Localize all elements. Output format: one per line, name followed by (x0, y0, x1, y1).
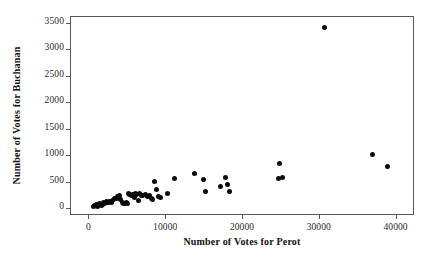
y-axis-tick-mark (66, 23, 70, 24)
y-axis-tick-label: 3500 (45, 16, 64, 26)
y-axis-tick-label: 3000 (45, 42, 64, 52)
y-axis-tick-mark (66, 102, 70, 103)
y-axis-tick-mark (66, 182, 70, 183)
y-axis-tick-mark (66, 155, 70, 156)
x-axis-tick-mark (242, 215, 243, 219)
x-axis-title: Number of Votes for Perot (70, 236, 414, 247)
y-axis-title: Number of Votes for Buchanan (11, 16, 25, 215)
x-axis-tick-label: 30000 (307, 222, 331, 232)
y-axis-tick-mark (66, 129, 70, 130)
y-axis-tick-label: 2000 (45, 95, 64, 105)
y-axis-tick-label: 500 (49, 175, 64, 185)
y-axis-tick-mark (66, 49, 70, 50)
x-axis-tick-mark (88, 215, 89, 219)
scatter-chart-figure: 0500100015002000250030003500 01000020000… (0, 0, 443, 264)
y-axis-tick-label: 0 (59, 201, 64, 211)
x-axis-tick-label: 10000 (153, 222, 177, 232)
plot-area-frame (70, 16, 414, 215)
x-axis-tick-mark (319, 215, 320, 219)
y-axis-tick-mark (66, 76, 70, 77)
y-axis-tick-label: 1500 (45, 122, 64, 132)
x-axis-tick-label: 0 (86, 222, 91, 232)
y-axis-tick-label: 1000 (45, 148, 64, 158)
x-axis-tick-mark (165, 215, 166, 219)
y-axis-tick-label: 2500 (45, 69, 64, 79)
x-axis-tick-mark (396, 215, 397, 219)
x-axis-tick-label: 20000 (230, 222, 254, 232)
y-axis-tick-mark (66, 208, 70, 209)
x-axis-tick-label: 40000 (383, 222, 407, 232)
